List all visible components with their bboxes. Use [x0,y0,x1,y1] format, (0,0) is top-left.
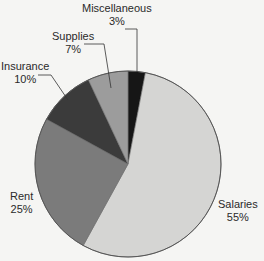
label-insurance: Insurance 10% [1,60,49,86]
leader-line-miscellaneous [125,29,137,72]
label-rent-pct: 25% [10,203,33,216]
label-salaries: Salaries 55% [218,198,258,224]
label-miscellaneous-name: Miscellaneous [82,2,152,15]
label-supplies-pct: 7% [52,43,94,56]
label-miscellaneous-pct: 3% [82,15,152,28]
label-salaries-pct: 55% [218,211,258,224]
label-insurance-pct: 10% [1,73,49,86]
label-salaries-name: Salaries [218,198,258,211]
label-supplies-name: Supplies [52,30,94,43]
label-supplies: Supplies 7% [52,30,94,56]
label-miscellaneous: Miscellaneous 3% [82,2,152,28]
label-rent-name: Rent [10,190,33,203]
pie-slices [35,71,221,257]
label-insurance-name: Insurance [1,60,49,73]
label-rent: Rent 25% [10,190,33,216]
